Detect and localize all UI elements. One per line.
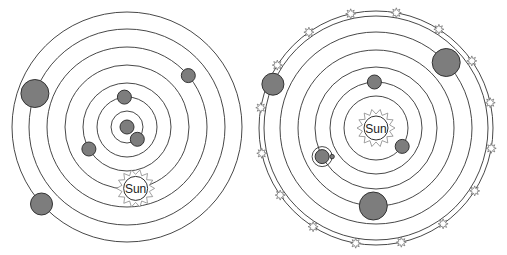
fixed-star-icon — [256, 103, 266, 113]
planet-moon — [130, 132, 144, 146]
fixed-star-icon — [434, 24, 444, 34]
planet-mercury — [395, 139, 409, 153]
fixed-star-icon — [346, 9, 356, 19]
fixed-star-icon — [396, 237, 406, 247]
solar-system-diagrams: Sun Sun — [0, 0, 507, 255]
planet-venus — [367, 75, 381, 89]
geocentric-model: Sun — [12, 12, 242, 242]
planet-venus — [82, 142, 96, 156]
fixed-star-icon — [467, 56, 477, 66]
planet-earth — [315, 150, 329, 164]
planet-mercury — [117, 90, 131, 104]
planet-mars — [359, 192, 387, 220]
sun-label: Sun — [365, 122, 386, 136]
fixed-star-icon — [351, 238, 361, 248]
earth-center — [120, 120, 134, 134]
fixed-star-icon — [438, 219, 448, 229]
planet-saturn — [31, 193, 53, 215]
sun-label: Sun — [125, 182, 146, 196]
fixed-star-icon — [272, 60, 282, 70]
fixed-star-icon — [275, 190, 285, 200]
fixed-star-icon — [470, 186, 480, 196]
fixed-star-icon — [308, 222, 318, 232]
fixed-star-icon — [486, 143, 496, 153]
fixed-star-icon — [485, 98, 495, 108]
fixed-star-icon — [304, 27, 314, 37]
fixed-star-icon — [391, 8, 401, 18]
planet-saturn — [262, 73, 284, 95]
planet-jupiter — [21, 80, 49, 108]
heliocentric-model: Sun — [256, 8, 496, 248]
sun: Sun — [117, 170, 155, 207]
planet-jupiter — [432, 49, 460, 77]
planet-mars — [181, 69, 195, 83]
planet-moon — [330, 154, 334, 158]
sun: Sun — [357, 110, 395, 147]
fixed-star-icon — [257, 148, 267, 158]
